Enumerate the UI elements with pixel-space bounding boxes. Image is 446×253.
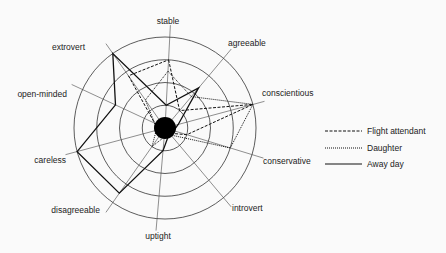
radar-chart: stableagreeableconscientiousconservative… [0,0,446,253]
axis-label-agreeable: agreeable [228,38,266,48]
axis-label-careless: careless [34,155,66,165]
axis-label-conscientious: conscientious [262,88,314,98]
series-away-day [77,54,199,194]
axis-spoke [66,128,165,155]
axis-label-introvert: introvert [232,203,263,213]
legend-item-daughter: Daughter [325,143,402,153]
legend-label: Daughter [367,143,402,153]
center-disk [154,117,176,139]
axis-spoke [165,128,231,207]
axis-spoke [156,128,165,231]
legend-item-away-day: Away day [325,159,404,169]
axis-label-conservative: conservative [263,156,311,166]
axis-label-disagreeable: disagreeable [51,205,100,215]
axis-spoke [165,128,263,158]
axis-label-open-minded: open-minded [17,89,67,99]
axis-spoke [165,25,170,128]
axis-label-stable: stable [157,16,180,26]
axis-spoke [106,128,165,212]
legend: Flight attendant Daughter Away day [325,126,426,169]
axis-label-uptight: uptight [145,231,171,241]
legend-label: Flight attendant [367,126,426,136]
axis-label-extrovert: extrovert [52,42,86,52]
legend-item-flight-attendant: Flight attendant [325,126,426,136]
legend-label: Away day [367,159,404,169]
axis-spoke [165,101,264,128]
